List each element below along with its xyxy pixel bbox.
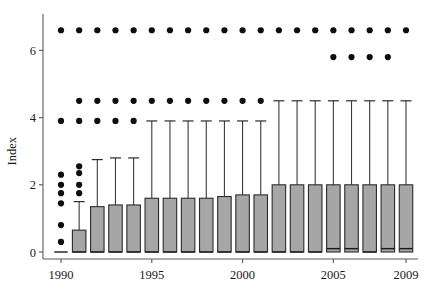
outlier-point <box>367 27 373 33</box>
outlier-point <box>258 98 264 104</box>
outlier-point <box>131 118 137 124</box>
box-body <box>381 185 395 252</box>
outlier-point <box>221 27 227 33</box>
outlier-point <box>58 200 64 206</box>
x-tick-label: 1995 <box>139 268 164 282</box>
outlier-point <box>330 54 336 60</box>
box-body <box>236 195 250 252</box>
outlier-point <box>58 190 64 196</box>
y-tick-label: 6 <box>30 44 36 58</box>
outlier-point <box>58 239 64 245</box>
outlier-point <box>112 27 118 33</box>
box-body <box>72 230 86 252</box>
outlier-point <box>58 118 64 124</box>
box-body <box>218 197 232 252</box>
outlier-point <box>94 27 100 33</box>
y-tick-label: 0 <box>30 246 36 260</box>
outlier-point <box>348 27 354 33</box>
outlier-point <box>239 98 245 104</box>
y-tick-label: 2 <box>30 178 36 192</box>
outlier-point <box>112 98 118 104</box>
x-tick-label: 2000 <box>230 268 255 282</box>
outlier-point <box>149 98 155 104</box>
outlier-point <box>76 163 82 169</box>
outlier-point <box>76 190 82 196</box>
outlier-point <box>76 98 82 104</box>
outlier-point <box>58 182 64 188</box>
box-body <box>127 205 141 252</box>
outlier-point <box>203 27 209 33</box>
box-body <box>181 198 195 252</box>
box-body <box>163 198 177 252</box>
box-body <box>327 185 341 252</box>
outlier-point <box>58 172 64 178</box>
box-body <box>345 185 359 252</box>
outlier-point <box>94 98 100 104</box>
outlier-point <box>185 98 191 104</box>
plot-canvas: 024619901995200020052009Index <box>0 0 430 294</box>
x-tick-label: 2005 <box>321 268 346 282</box>
outlier-point <box>58 27 64 33</box>
box-body <box>254 195 268 252</box>
box-plot-chart: 024619901995200020052009Index <box>0 0 430 294</box>
outlier-point <box>348 54 354 60</box>
outlier-point <box>149 27 155 33</box>
outlier-point <box>221 98 227 104</box>
outlier-point <box>185 27 191 33</box>
outlier-point <box>76 118 82 124</box>
outlier-point <box>294 27 300 33</box>
outlier-point <box>258 27 264 33</box>
outlier-point <box>167 27 173 33</box>
box-body <box>272 185 286 252</box>
box-body <box>290 185 304 252</box>
outlier-point <box>330 27 336 33</box>
x-tick-label: 2009 <box>394 268 419 282</box>
box-body <box>308 185 322 252</box>
y-axis-title: Index <box>5 136 19 165</box>
outlier-point <box>131 98 137 104</box>
outlier-point <box>76 27 82 33</box>
outlier-point <box>203 98 209 104</box>
outlier-point <box>131 27 137 33</box>
box-body <box>145 198 159 252</box>
box-body <box>200 198 214 252</box>
outlier-point <box>94 118 100 124</box>
outlier-point <box>385 54 391 60</box>
outlier-point <box>76 182 82 188</box>
box-body <box>363 185 377 252</box>
outlier-point <box>76 170 82 176</box>
box-body <box>91 207 105 252</box>
outlier-point <box>367 54 373 60</box>
outlier-point <box>58 222 64 228</box>
box-body <box>109 205 123 252</box>
x-tick-label: 1990 <box>49 268 74 282</box>
outlier-point <box>385 27 391 33</box>
y-tick-label: 4 <box>30 111 37 125</box>
outlier-point <box>167 98 173 104</box>
outlier-point <box>239 27 245 33</box>
box-body <box>399 185 413 252</box>
outlier-point <box>112 118 118 124</box>
outlier-point <box>403 27 409 33</box>
outlier-point <box>276 27 282 33</box>
outlier-point <box>312 27 318 33</box>
boxes-layer <box>54 185 413 252</box>
